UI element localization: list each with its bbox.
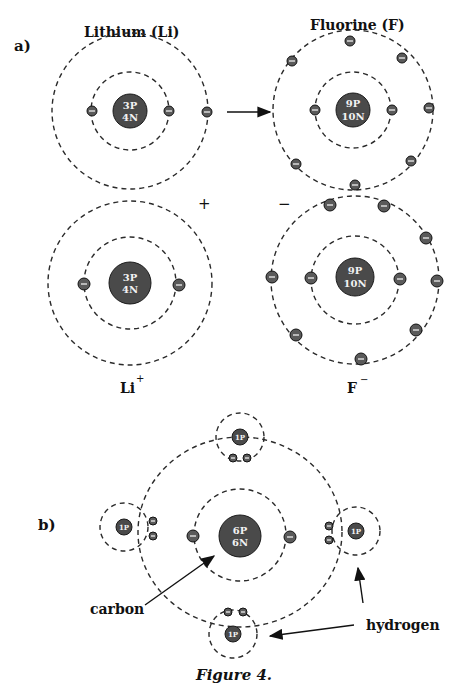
arrow-icon: [358, 568, 363, 603]
protons: 3P: [123, 100, 138, 111]
hydrogen-atom: 1P: [209, 608, 257, 658]
nucleus: [336, 258, 374, 296]
electron-icon: [149, 517, 157, 525]
electron-icon: [149, 532, 157, 540]
svg-text:1P: 1P: [351, 527, 362, 536]
hydrogen-atom: 1P: [100, 503, 157, 551]
figure-caption: Figure 4.: [195, 666, 272, 684]
electron-icon: [224, 608, 232, 616]
lithium-ion: 3P 4N Li +: [48, 201, 212, 396]
electron-icon: [410, 324, 422, 336]
electron-icon: [394, 273, 406, 285]
protons: 6P: [233, 525, 248, 536]
neutrons: 10N: [341, 111, 364, 122]
electron-icon: [387, 105, 397, 115]
fluoride-ion-label: F: [347, 380, 357, 396]
electron-icon: [431, 275, 443, 287]
lithium-ion-charge: +: [136, 373, 144, 384]
hydrogen-atom: 1P: [216, 413, 264, 462]
fluorine-atom: Fluorine (F) 9P 10N: [273, 17, 434, 190]
methane-molecule: 6P 6N 1P 1P 1P: [100, 413, 380, 658]
electron-icon: [310, 105, 320, 115]
electron-icon: [287, 56, 297, 66]
hydrogen-atom: 1P: [325, 507, 380, 555]
electron-icon: [187, 530, 199, 542]
carbon-nucleus: [219, 515, 261, 557]
protons: 3P: [123, 272, 138, 283]
neutrons: 4N: [122, 284, 138, 295]
svg-text:1P: 1P: [235, 433, 246, 442]
protons: 9P: [346, 98, 361, 109]
fluoride-ion-charge: −: [360, 374, 368, 385]
electron-icon: [406, 156, 416, 166]
electron-icon: [290, 329, 302, 341]
electron-icon: [324, 199, 336, 211]
electron-icon: [397, 53, 407, 63]
electron-icon: [87, 106, 97, 116]
neutrons: 4N: [122, 112, 138, 123]
electron-icon: [78, 278, 90, 290]
atom-diagram: a) Lithium (Li) 3P 4N Fluorine (F) 9P 10…: [0, 0, 462, 692]
minus-sign: −: [278, 195, 291, 213]
electron-icon: [243, 454, 251, 462]
lithium-ion-label: Li: [120, 380, 135, 396]
electron-icon: [345, 36, 355, 46]
electron-icon: [202, 107, 212, 117]
svg-text:1P: 1P: [119, 523, 130, 532]
fluoride-ion: 9P 10N F −: [266, 196, 443, 396]
electron-icon: [424, 103, 434, 113]
electron-icon: [229, 454, 237, 462]
electron-icon: [291, 159, 301, 169]
electron-icon: [284, 531, 296, 543]
panel-b-label: b): [38, 516, 56, 534]
panel-a-label: a): [14, 37, 31, 55]
electron-icon: [355, 353, 367, 365]
electron-icon: [325, 536, 333, 544]
neutrons: 10N: [343, 278, 366, 289]
electron-icon: [239, 608, 247, 616]
electron-icon: [420, 232, 432, 244]
carbon-label: carbon: [90, 601, 144, 617]
hydrogen-label: hydrogen: [366, 617, 440, 633]
svg-text:1P: 1P: [228, 630, 239, 639]
electron-icon: [378, 200, 390, 212]
lithium-title: Lithium (Li): [84, 24, 179, 40]
protons: 9P: [348, 265, 363, 276]
electron-icon: [164, 106, 174, 116]
electron-icon: [173, 279, 185, 291]
electron-icon: [325, 522, 333, 530]
neutrons: 6N: [232, 537, 248, 548]
nucleus: [109, 262, 151, 304]
arrow-icon: [145, 556, 214, 605]
lithium-atom: Lithium (Li) 3P 4N: [52, 24, 212, 189]
electron-icon: [305, 272, 317, 284]
electron-icon: [350, 180, 360, 190]
arrow-icon: [270, 625, 354, 636]
plus-sign: +: [198, 195, 211, 213]
electron-icon: [266, 271, 278, 283]
